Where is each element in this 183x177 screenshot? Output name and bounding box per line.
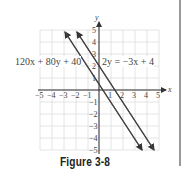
y-tick: 4 [92, 38, 96, 47]
y-tick: −4 [89, 134, 98, 143]
x-tick: 4 [144, 91, 148, 100]
y-axis-label: y [95, 13, 99, 22]
x-tick: −2 [71, 91, 80, 100]
x-axis-label: x [168, 85, 172, 94]
x-tick: 1 [108, 91, 112, 100]
x-tick: −5 [35, 91, 44, 100]
y-tick: 5 [92, 26, 96, 35]
equation-label-left: 120x + 80y + 40 [15, 56, 81, 67]
figure-caption: Figure 3-8 [60, 154, 110, 169]
x-tick: −4 [47, 91, 56, 100]
y-tick: 1 [92, 74, 96, 83]
x-tick: −3 [59, 91, 68, 100]
y-tick: 3 [92, 50, 96, 59]
x-tick: 3 [132, 91, 136, 100]
y-tick: 2 [92, 62, 96, 71]
x-tick: 5 [156, 91, 160, 100]
x-tick: 2 [120, 91, 124, 100]
y-tick: −3 [89, 122, 98, 131]
x-tick: −1 [83, 91, 92, 100]
page-rule [179, 0, 181, 166]
y-tick: −2 [89, 110, 98, 119]
equation-label-right: 2y = −3x + 4 [102, 56, 154, 67]
